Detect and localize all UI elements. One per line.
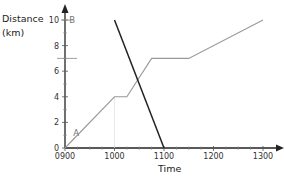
- series-b-to-a: [115, 20, 165, 148]
- y-tick-label: 6: [54, 67, 59, 76]
- x-axis-arrow-icon: [276, 145, 284, 152]
- x-tick-label: 1000: [104, 152, 124, 161]
- x-tick-label: 1200: [203, 152, 223, 161]
- distance-time-chart: 024681009001000110012001300AB: [0, 0, 284, 180]
- x-tick-label: 1100: [154, 152, 174, 161]
- y-tick-label: 2: [54, 118, 59, 127]
- y-axis-arrow-icon: [62, 4, 69, 13]
- y-tick-label: 4: [54, 93, 59, 102]
- point-label-a: A: [73, 128, 79, 138]
- x-tick-label: 1300: [253, 152, 273, 161]
- series-a-to-b: [65, 20, 263, 148]
- x-tick-label: 0900: [55, 152, 75, 161]
- y-tick-label: 10: [49, 16, 59, 25]
- y-tick-label: 8: [54, 42, 59, 51]
- point-label-b: B: [69, 15, 75, 25]
